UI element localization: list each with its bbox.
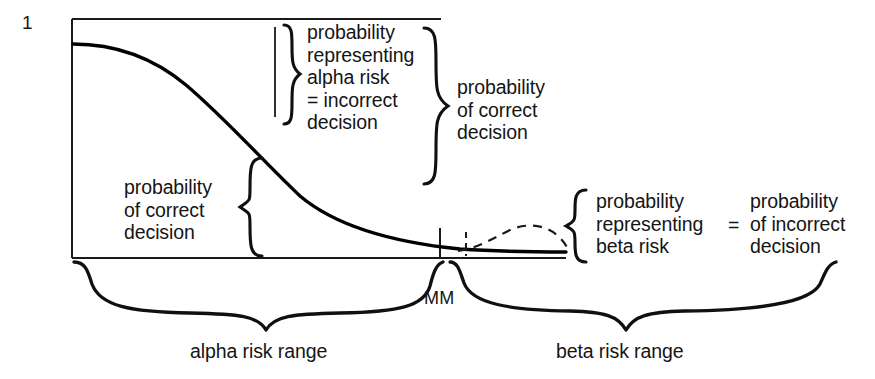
beta-risk-brace [566, 190, 586, 262]
alpha-risk-annotation: probability representing alpha risk = in… [307, 21, 414, 134]
incorrect-right-line-3: decision [750, 235, 845, 258]
beta-distribution-dashed-curve [458, 226, 569, 252]
correct-lower-line-3: decision [124, 221, 212, 244]
alpha-risk-line-3: alpha risk [307, 66, 414, 89]
incorrect-decision-annotation: probability of incorrect decision [750, 190, 845, 258]
correct-decision-upper-brace [424, 28, 448, 184]
incorrect-right-line-1: probability [750, 190, 845, 213]
alpha-risk-range-brace [74, 262, 443, 330]
alpha-risk-range-label: alpha risk range [190, 340, 327, 363]
alpha-risk-line-2: representing [307, 44, 414, 67]
correct-lower-line-1: probability [124, 176, 212, 199]
correct-decision-upper-annotation: probability of correct decision [457, 76, 545, 144]
correct-decision-lower-annotation: probability of correct decision [124, 176, 212, 244]
beta-risk-annotation: probability representing beta risk [596, 190, 703, 258]
mm-tick-label: MM [424, 288, 454, 309]
beta-risk-range-label: beta risk range [556, 340, 684, 363]
alpha-risk-line-4: = incorrect [307, 89, 414, 112]
alpha-risk-line-1: probability [307, 21, 414, 44]
y-axis-top-label: 1 [22, 12, 32, 34]
alpha-risk-line-5: decision [307, 111, 414, 134]
equals-sign: = [728, 214, 739, 237]
correct-lower-line-2: of correct [124, 199, 212, 222]
beta-risk-line-3: beta risk [596, 235, 703, 258]
beta-risk-line-2: representing [596, 213, 703, 236]
beta-risk-range-brace [450, 262, 836, 330]
incorrect-right-line-2: of incorrect [750, 213, 845, 236]
correct-upper-line-2: of correct [457, 99, 545, 122]
correct-upper-line-3: decision [457, 121, 545, 144]
beta-risk-line-1: probability [596, 190, 703, 213]
correct-upper-line-1: probability [457, 76, 545, 99]
alpha-risk-brace [284, 25, 300, 124]
figure-container: 1 probability representing alpha risk = … [0, 0, 875, 379]
correct-decision-lower-brace [240, 158, 262, 256]
